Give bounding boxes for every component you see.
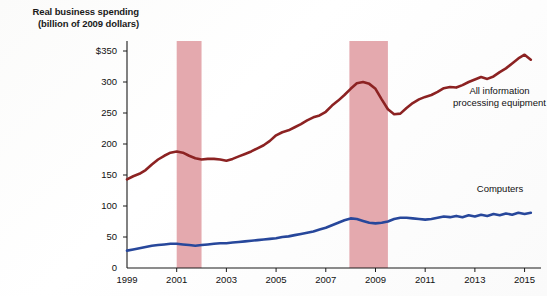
x-tick-label: 2005 (254, 275, 298, 285)
x-tick-label: 2007 (304, 275, 348, 285)
x-tick-label: 2003 (204, 275, 248, 285)
x-tick-label: 1999 (105, 275, 149, 285)
y-tick-label: $350 (73, 46, 117, 56)
y-tick-label: 200 (73, 139, 117, 149)
y-tick-label: 50 (73, 232, 117, 242)
x-tick-label: 2011 (403, 275, 447, 285)
chart-container: Real business spending (billion of 2009 … (0, 0, 547, 296)
recession-band-2008 (349, 41, 388, 268)
y-tick-label: 150 (73, 170, 117, 180)
x-tick-label: 2001 (155, 275, 199, 285)
series-label-computers-text: Computers (455, 183, 545, 195)
recession-bands-group (177, 41, 388, 268)
y-tick-label: 300 (73, 77, 117, 87)
series-label-all-info-line2: processing equipment (452, 97, 547, 109)
y-tick-label: 0 (73, 263, 117, 273)
series-label-all-info-line1: All information (452, 85, 547, 97)
y-tick-label: 100 (73, 201, 117, 211)
x-tick-label: 2015 (503, 275, 547, 285)
x-tick-label: 2009 (353, 275, 397, 285)
y-tick-label: 250 (73, 108, 117, 118)
x-tick-label: 2013 (453, 275, 497, 285)
series-label-all-information-processing-equipment: All information processing equipment (452, 85, 547, 109)
series-label-computers: Computers (455, 183, 545, 195)
